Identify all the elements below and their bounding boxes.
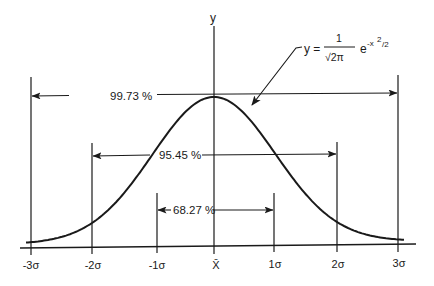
density-formula: y = 1 √2π e -x 2 /2 xyxy=(304,32,389,63)
range-95-left-arrow xyxy=(93,155,150,156)
tick-label-minus-1-sigma: -1σ xyxy=(149,259,166,271)
tick-label-plus-1-sigma: 1σ xyxy=(269,258,282,270)
svg-text:e: e xyxy=(360,42,367,56)
tick-label-minus-3-sigma: -3σ xyxy=(23,259,40,271)
range-95-right-arrow xyxy=(202,154,336,155)
tick-label-minus-2-sigma: -2σ xyxy=(85,259,102,271)
svg-text:y =: y = xyxy=(304,42,320,56)
svg-text:1: 1 xyxy=(336,32,342,44)
formula-leader-line xyxy=(252,47,302,105)
svg-text:√2π: √2π xyxy=(325,51,344,63)
tick-label-plus-3-sigma: 3σ xyxy=(393,257,406,269)
range-99-left-arrow xyxy=(32,96,69,97)
range-95-label: 95.45 % xyxy=(159,149,201,161)
normal-curve xyxy=(26,97,404,243)
range-99-right-arrow xyxy=(157,93,397,95)
x-tick-labels: -3σ -2σ -1σ X̄ 1σ 2σ 3σ xyxy=(23,257,406,271)
y-axis-label: y xyxy=(210,11,216,25)
x-axis-baseline xyxy=(20,244,416,248)
normal-distribution-diagram: y 99.73 % 95.45 % 68.27 % y = 1 √2π e -x… xyxy=(0,0,434,286)
svg-text:/2: /2 xyxy=(382,40,389,49)
tick-label-plus-2-sigma: 2σ xyxy=(332,258,345,270)
tick-label-mean: X̄ xyxy=(212,259,220,271)
range-99-label: 99.73 % xyxy=(110,90,152,102)
svg-text:-x: -x xyxy=(367,39,374,48)
range-68-label: 68.27 % xyxy=(173,204,215,216)
